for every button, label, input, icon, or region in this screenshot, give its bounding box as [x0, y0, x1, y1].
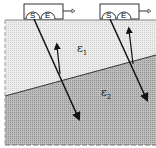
sensor-2: S E [100, 4, 151, 20]
epsilon-2-label: ε2 [101, 86, 111, 101]
svg-text:S: S [30, 11, 35, 20]
radar-diagram: S E S E [0, 0, 156, 148]
svg-text:S: S [106, 11, 111, 20]
sensor-1: S E [24, 4, 75, 20]
svg-text:E: E [45, 11, 50, 20]
svg-text:E: E [121, 11, 126, 20]
epsilon-1-label: ε1 [77, 42, 87, 57]
